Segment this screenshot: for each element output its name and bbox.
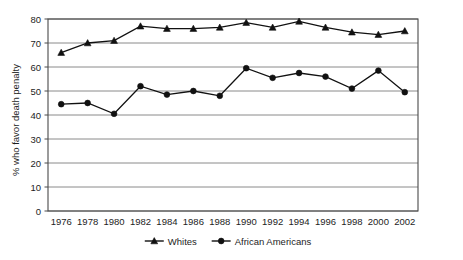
line-chart-death-penalty-support: 01020304050607080 1976197819801982198419…: [0, 0, 463, 260]
legend-label: Whites: [168, 236, 197, 247]
x-tick-label: 2000: [368, 216, 389, 227]
x-tick-label: 1994: [289, 216, 310, 227]
legend-marker-circle-icon: [218, 238, 224, 244]
x-tick-label: 1986: [183, 216, 204, 227]
data-point: [375, 68, 381, 74]
data-point: [164, 92, 170, 98]
y-tick-label: 0: [36, 206, 41, 217]
x-tick-label: 1978: [77, 216, 98, 227]
data-point: [111, 111, 117, 117]
x-tick-label: 1992: [262, 216, 283, 227]
x-tick-label: 2002: [394, 216, 415, 227]
data-point: [270, 75, 276, 81]
data-point: [217, 93, 223, 99]
y-axis-title-label: % who favor death penalty: [10, 64, 21, 176]
x-tick-label: 1976: [51, 216, 72, 227]
x-tick-label: 1980: [104, 216, 125, 227]
data-point: [402, 89, 408, 95]
x-tick-label: 1996: [315, 216, 336, 227]
legend-label: African Americans: [235, 236, 312, 247]
x-tick-label: 1988: [209, 216, 230, 227]
x-tick-label: 1998: [341, 216, 362, 227]
y-axis-title: % who favor death penalty: [10, 64, 21, 176]
y-tick-label: 60: [30, 62, 41, 73]
x-tick-label: 1982: [130, 216, 151, 227]
data-point: [85, 100, 91, 106]
data-point: [323, 74, 329, 80]
chart-canvas: 01020304050607080 1976197819801982198419…: [0, 0, 463, 260]
data-point: [190, 88, 196, 94]
data-point: [296, 70, 302, 76]
y-tick-label: 30: [30, 134, 41, 145]
y-tick-label: 70: [30, 38, 41, 49]
y-tick-label: 40: [30, 110, 41, 121]
y-tick-label: 10: [30, 182, 41, 193]
data-point: [138, 83, 144, 89]
y-tick-label: 20: [30, 158, 41, 169]
y-tick-label: 80: [30, 14, 41, 25]
y-tick-label: 50: [30, 86, 41, 97]
data-point: [58, 101, 64, 107]
data-point: [243, 65, 249, 71]
data-point: [349, 86, 355, 92]
x-tick-label: 1984: [156, 216, 177, 227]
x-tick-label: 1990: [236, 216, 257, 227]
